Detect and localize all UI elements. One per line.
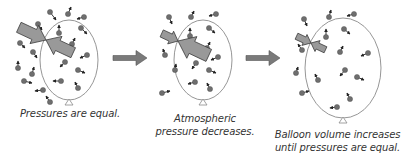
gas-molecule	[80, 52, 90, 58]
molecule-dot	[299, 47, 304, 52]
balloon-pressure-diagram: Pressures are equal. Atmospheric pressur…	[0, 0, 407, 157]
gas-molecule	[53, 78, 64, 83]
gas-molecule	[56, 25, 61, 36]
balloon-outline	[40, 20, 98, 100]
molecule-dot	[78, 25, 83, 30]
molecule-dot	[215, 54, 220, 59]
gas-molecule	[211, 54, 221, 60]
molecule-dot	[29, 71, 34, 76]
molecule-dot	[192, 79, 197, 84]
caption-line: pressure decreases.	[135, 125, 275, 138]
molecule-dot	[341, 26, 346, 31]
panel-increases	[293, 10, 381, 123]
molecule-dot	[347, 96, 352, 101]
molecule-dot	[351, 11, 356, 16]
gas-molecule	[326, 10, 331, 20]
molecule-dot	[65, 11, 70, 16]
gas-molecule	[46, 96, 53, 105]
panel-equal	[15, 7, 98, 105]
molecule-dot	[172, 67, 177, 72]
gas-molecule	[361, 50, 371, 56]
molecule-dot	[299, 90, 304, 95]
gas-molecule	[47, 9, 56, 20]
gas-molecule	[188, 79, 198, 84]
balloon-outline	[305, 18, 381, 118]
gas-molecule	[159, 90, 170, 95]
gas-molecule	[17, 40, 25, 48]
molecule-dot	[213, 11, 218, 16]
molecule-dot	[84, 52, 89, 57]
molecule-dot	[75, 67, 80, 72]
gas-molecule	[29, 67, 34, 77]
gas-molecule	[354, 74, 364, 80]
molecule-dot	[21, 78, 26, 83]
gas-molecule	[188, 11, 194, 20]
molecule-dot	[30, 49, 35, 54]
molecule-dot	[323, 34, 328, 39]
molecule-dot	[301, 16, 306, 21]
molecule-dot	[15, 65, 20, 70]
gas-molecule	[337, 46, 343, 55]
gas-molecule	[162, 49, 167, 58]
molecule-dot	[354, 74, 359, 79]
step-arrow-icon	[246, 51, 280, 66]
gas-molecule	[15, 61, 20, 71]
molecule-dot	[162, 52, 167, 57]
gas-molecule	[323, 29, 328, 40]
molecule-dot	[207, 86, 212, 91]
gas-molecule	[187, 28, 192, 39]
caption-line: Balloon volume increases	[265, 128, 407, 141]
caption-balloon-volume-increases: Balloon volume increases until pressures…	[265, 128, 407, 154]
gas-molecule	[30, 49, 37, 58]
gas-molecule	[35, 87, 46, 92]
gas-molecule	[166, 14, 172, 24]
gas-molecule	[301, 16, 307, 26]
molecule-dot	[40, 87, 45, 92]
gas-molecule	[293, 67, 298, 76]
molecule-dot	[81, 14, 86, 19]
molecule-dot	[293, 70, 298, 75]
molecule-dot	[47, 9, 52, 14]
caption-line: Atmospheric	[135, 112, 275, 125]
gas-molecule	[172, 64, 177, 73]
molecule-dot	[47, 99, 52, 104]
gas-molecule	[209, 11, 219, 16]
gas-molecule	[299, 90, 309, 95]
internal-pressure-arrow-icon	[46, 36, 76, 57]
molecule-dot	[326, 14, 331, 19]
gas-molecule	[192, 60, 199, 69]
gas-molecule	[347, 93, 353, 102]
gas-molecule	[340, 67, 348, 76]
caption-pressures-equal: Pressures are equal.	[0, 107, 140, 120]
gas-molecule	[347, 11, 357, 16]
caption-line: Pressures are equal.	[0, 107, 140, 120]
molecule-dot	[166, 14, 171, 19]
internal-pressure-arrow-icon	[178, 37, 212, 62]
molecule-dot	[62, 59, 67, 64]
caption-line: until pressures are equal.	[265, 141, 407, 154]
molecule-dot	[315, 77, 320, 82]
gas-molecule	[206, 67, 216, 73]
gas-molecule	[330, 104, 340, 109]
molecule-dot	[17, 40, 22, 45]
molecule-dot	[193, 60, 198, 65]
gas-molecule	[207, 83, 213, 92]
internal-pressure-arrow-icon	[311, 41, 327, 53]
molecule-dot	[365, 50, 370, 55]
atmospheric-pressure-arrow-icon	[295, 33, 311, 45]
atmospheric-pressure-arrow-icon	[160, 30, 178, 44]
molecule-dot	[58, 78, 63, 83]
molecule-dot	[337, 49, 342, 54]
caption-atmospheric-pressure-decreases: Atmospheric pressure decreases.	[135, 112, 275, 138]
gas-molecule	[206, 25, 215, 33]
gas-molecule	[60, 59, 68, 67]
molecule-dot	[206, 67, 211, 72]
gas-molecule	[65, 7, 71, 17]
gas-molecule	[315, 74, 321, 83]
gas-molecule	[341, 26, 350, 34]
gas-molecule	[21, 78, 32, 83]
gas-molecule	[75, 82, 81, 91]
molecule-dot	[342, 67, 347, 72]
molecule-dot	[206, 25, 211, 30]
gas-molecule	[75, 67, 85, 73]
